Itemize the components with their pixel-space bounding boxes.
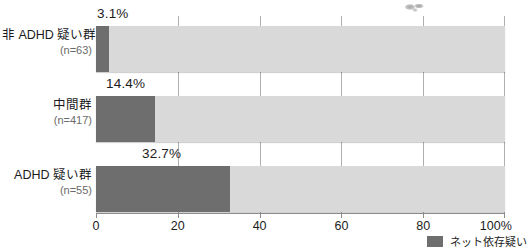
x-tick-label-100: 100% bbox=[480, 219, 512, 233]
bar-segment-net-dependence bbox=[96, 26, 109, 72]
x-tick-80 bbox=[423, 213, 424, 218]
x-tick-label-0: 0 bbox=[93, 219, 100, 233]
x-axis-line bbox=[96, 213, 505, 214]
x-tick-label-40: 40 bbox=[253, 219, 267, 233]
category-name: 中間群 bbox=[2, 98, 92, 113]
value-label-0: 3.1% bbox=[97, 6, 129, 21]
bar-segment-net-dependence bbox=[96, 96, 155, 142]
bar-track bbox=[96, 166, 505, 212]
legend-swatch-net-dependence bbox=[427, 236, 443, 247]
legend-label-net-dependence: ネット依存疑い bbox=[450, 233, 527, 249]
x-tick-40 bbox=[260, 213, 261, 218]
x-tick-label-80: 80 bbox=[416, 219, 430, 233]
bar-row-2 bbox=[96, 166, 505, 212]
bar-row-0 bbox=[96, 26, 505, 72]
x-tick-60 bbox=[341, 213, 342, 218]
x-tick-0 bbox=[96, 213, 97, 218]
bar-track bbox=[96, 26, 505, 72]
category-sample-size: (n=55) bbox=[2, 183, 92, 197]
stacked-bar-chart: 非 ADHD 疑い群 (n=63) 中間群 (n=417) ADHD 疑い群 (… bbox=[0, 0, 530, 250]
x-tick-label-20: 20 bbox=[171, 219, 185, 233]
value-label-1: 14.4% bbox=[106, 76, 145, 91]
category-name: 非 ADHD 疑い群 bbox=[2, 28, 92, 43]
x-tick-label-60: 60 bbox=[334, 219, 348, 233]
category-name: ADHD 疑い群 bbox=[2, 168, 92, 183]
category-sample-size: (n=63) bbox=[2, 43, 92, 57]
value-label-2: 32.7% bbox=[142, 146, 181, 161]
x-tick-100 bbox=[504, 213, 505, 218]
plot-area: 3.1% 14.4% 32.7% bbox=[96, 16, 505, 213]
x-tick-20 bbox=[178, 213, 179, 218]
bar-row-1 bbox=[96, 96, 505, 142]
legend: ネット依存疑い bbox=[427, 233, 527, 249]
bar-segment-net-dependence bbox=[96, 166, 230, 212]
scan-smudge-artifact bbox=[404, 2, 426, 12]
category-sample-size: (n=417) bbox=[2, 113, 92, 127]
bar-track bbox=[96, 96, 505, 142]
